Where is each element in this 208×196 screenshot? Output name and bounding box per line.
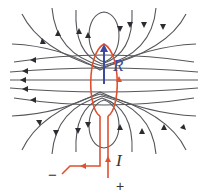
current-loop-field-diagram bbox=[0, 0, 208, 196]
current-arrow-out bbox=[80, 163, 86, 169]
current-arrow-in bbox=[105, 156, 111, 162]
moment-label: R bbox=[113, 56, 123, 76]
current-label: I bbox=[116, 151, 122, 171]
plus-terminal-label: + bbox=[116, 178, 124, 194]
minus-terminal-label: − bbox=[48, 166, 57, 183]
